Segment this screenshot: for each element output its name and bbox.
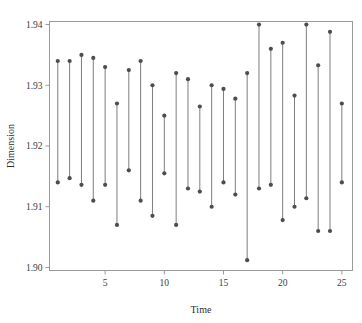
data-point-marker [56, 180, 60, 184]
range-plot-svg: 1.901.911.921.931.94 510152025 Time Dime… [0, 0, 362, 323]
data-point-marker [328, 229, 332, 233]
data-point-marker [68, 59, 72, 63]
data-point-marker [257, 22, 261, 26]
data-point-marker [186, 186, 190, 190]
data-point-marker [79, 183, 83, 187]
data-point-marker [304, 196, 308, 200]
data-point-marker [139, 59, 143, 63]
y-tick-label: 1.93 [26, 81, 43, 91]
data-point-marker [115, 223, 119, 227]
y-tick-label: 1.90 [26, 263, 43, 273]
data-point-marker [186, 77, 190, 81]
data-point-marker [162, 171, 166, 175]
x-tick-label: 15 [219, 278, 229, 288]
y-tick-label: 1.92 [26, 141, 43, 151]
data-point-marker [340, 101, 344, 105]
y-tick-label: 1.91 [26, 202, 43, 212]
data-point-marker [233, 192, 237, 196]
x-axis-tick-labels: 510152025 [103, 278, 347, 288]
x-tick-label: 25 [337, 278, 347, 288]
data-point-marker [150, 83, 154, 87]
data-point-marker [269, 47, 273, 51]
data-point-marker [139, 199, 143, 203]
data-point-marker [269, 183, 273, 187]
x-axis-title: Time [191, 304, 212, 315]
data-point-marker [162, 114, 166, 118]
data-point-marker [316, 229, 320, 233]
data-point-marker [68, 176, 72, 180]
y-axis-ticks [46, 25, 50, 268]
data-point-marker [127, 68, 131, 72]
data-range-segments [58, 25, 342, 261]
data-point-marker [281, 218, 285, 222]
y-axis-title: Dimension [5, 124, 16, 168]
data-point-marker [91, 56, 95, 60]
data-point-marker [281, 41, 285, 45]
data-point-marker [304, 22, 308, 26]
data-point-marker [91, 199, 95, 203]
x-tick-label: 20 [278, 278, 288, 288]
data-point-marker [245, 71, 249, 75]
data-point-marker [115, 101, 119, 105]
data-point-marker [221, 180, 225, 184]
data-point-marker [245, 258, 249, 262]
data-point-marker [257, 186, 261, 190]
data-point-marker [150, 214, 154, 218]
x-axis-ticks [105, 271, 342, 275]
chart-figure: 1.901.911.921.931.94 510152025 Time Dime… [0, 0, 362, 323]
data-point-marker [233, 97, 237, 101]
data-point-marker [292, 205, 296, 209]
data-point-marker [221, 87, 225, 91]
data-point-marker [340, 180, 344, 184]
data-point-marker [328, 30, 332, 34]
data-point-marker [174, 223, 178, 227]
y-axis-tick-labels: 1.901.911.921.931.94 [26, 20, 43, 273]
data-point-marker [127, 168, 131, 172]
data-point-marker [103, 65, 107, 69]
data-point-marker [174, 71, 178, 75]
x-tick-label: 5 [103, 278, 108, 288]
data-point-marker [79, 53, 83, 57]
data-point-marker [198, 189, 202, 193]
data-point-marker [198, 104, 202, 108]
data-point-marker [316, 63, 320, 67]
data-point-marker [103, 183, 107, 187]
data-point-marker [210, 205, 214, 209]
data-point-marker [210, 83, 214, 87]
x-tick-label: 10 [160, 278, 170, 288]
data-point-marker [292, 93, 296, 97]
data-point-marker [56, 59, 60, 63]
y-tick-label: 1.94 [26, 20, 43, 30]
